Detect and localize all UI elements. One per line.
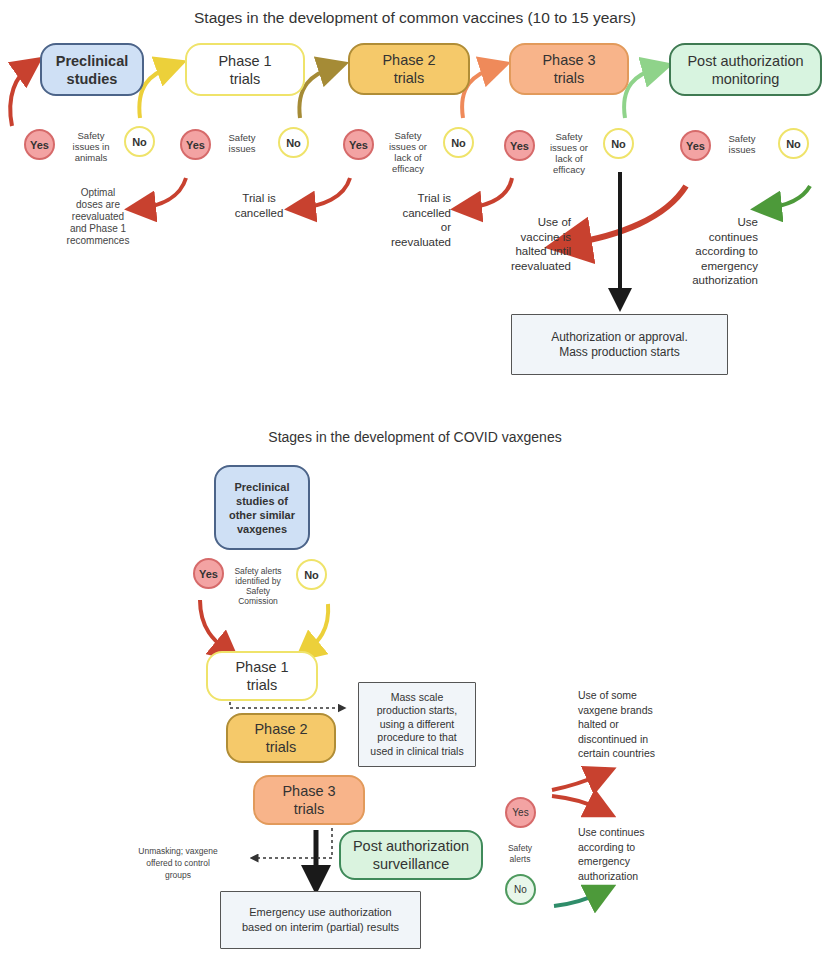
stage-label: Phase 3 [542, 51, 595, 69]
outcome-line: continues [676, 230, 758, 245]
question-line: Safety [385, 130, 431, 141]
outcome-line: reevaluated [390, 235, 451, 250]
outcome-line: and Phase 1 [64, 223, 132, 235]
outcome-use-continues: Usecontinuesaccording toemergencyauthori… [676, 215, 758, 288]
question-line: issues in [66, 141, 116, 152]
stage-phase1-trials: Phase 1trials [185, 43, 305, 96]
question-label-1: Safetyissues inanimals [66, 130, 116, 163]
outcome-line: Trial is [390, 191, 451, 206]
outcome-line: Use [676, 215, 758, 230]
question-line: identified by [228, 576, 288, 586]
stage-label: monitoring [687, 70, 803, 88]
question-label-5: Safetyissues [722, 133, 762, 155]
question-line: Safety [66, 130, 116, 141]
outcome-line: authorization [578, 869, 678, 884]
box-line: production starts, [370, 704, 463, 718]
question-line: issues or [385, 141, 431, 152]
stage-label: studies [56, 70, 129, 88]
question-line: animals [66, 152, 116, 163]
question-line: lack of [385, 152, 431, 163]
question-line: Safety alerts [228, 566, 288, 576]
box-line: Mass scale [370, 691, 463, 705]
yes-node-3: Yes [343, 129, 374, 160]
outcome-line: Trial is [226, 191, 292, 206]
stage-line: Preclinical [229, 480, 295, 494]
outcome-line: Use continues [578, 825, 678, 840]
stage-label: trials [235, 676, 288, 694]
outcome-trial-cancelled: Trial iscancelled [226, 191, 292, 220]
question-label-4: Safetyissues orlack ofefficacy [546, 131, 592, 175]
stage-label: trials [382, 69, 435, 87]
outcome-line: vaccine is [500, 230, 571, 245]
outcome-line: Use of some [578, 688, 688, 703]
question-line: Safety [722, 133, 762, 144]
question-line: issues [722, 144, 762, 155]
outcome-line: cancelled [226, 206, 292, 221]
outcome-line: Optimal [64, 187, 132, 199]
outcome-line: certain countries [578, 746, 688, 761]
yes-node-5: Yes [680, 130, 711, 161]
question-line: efficacy [385, 163, 431, 174]
yes-node-safety-commission: Yes [193, 558, 224, 589]
yes-node-1: Yes [24, 129, 55, 160]
no-node-3: No [443, 127, 474, 158]
stage-phase2-trials: Phase 2trials [348, 43, 470, 95]
stage-label: Phase 3 [282, 782, 335, 800]
outcome-line: doses are [64, 199, 132, 211]
covid-phase2-trials: Phase 2trials [226, 713, 336, 763]
box-line: used in clinical trials [370, 745, 463, 759]
box-line: using a different [370, 718, 463, 732]
outcome-line: emergency [578, 854, 678, 869]
stage-label: Phase 2 [382, 51, 435, 69]
outcome-brands-halted: Use of somevaxgene brandshalted ordiscon… [578, 688, 688, 761]
stage-label: Phase 1 [218, 52, 271, 70]
note-line: offered to control [130, 857, 226, 869]
stage-label: surveillance [353, 855, 469, 873]
question-line: Safety [222, 132, 262, 143]
note-line: groups [130, 869, 226, 881]
note-line: Unmasking; vaxgene [130, 845, 226, 857]
stage-label: Phase 2 [254, 720, 307, 738]
outcome-line: vaxgene brands [578, 703, 688, 718]
outcome-line: Use of [500, 215, 571, 230]
stage-line: other similar [229, 508, 295, 522]
question-line: efficacy [546, 164, 592, 175]
box-line: procedure to that [370, 731, 463, 745]
stage-label: Preclinical [56, 52, 129, 70]
yes-node-2: Yes [180, 129, 211, 160]
yes-node-4: Yes [504, 130, 535, 161]
outcome-line: according to [676, 244, 758, 259]
no-node-safety-alerts: No [505, 874, 536, 905]
no-node-2: No [278, 127, 309, 158]
stage-preclinical-studies: Preclinicalstudies [40, 43, 144, 96]
stage-label: trials [542, 69, 595, 87]
outcome-line: authorization [676, 273, 758, 288]
yes-node-safety-alerts: Yes [505, 797, 536, 828]
outcome-line: discontinued in [578, 732, 688, 747]
stage-phase3-trials: Phase 3trials [509, 43, 629, 95]
question-line: Safety [502, 843, 538, 854]
mass-scale-production-box: Mass scaleproduction starts,using a diff… [358, 682, 476, 767]
box-line: Mass production starts [551, 345, 688, 360]
unmasking-note: Unmasking; vaxgeneoffered to controlgrou… [130, 845, 226, 881]
stage-preclinical-similar-vaxgenes: Preclinicalstudies ofother similarvaxgen… [214, 465, 310, 550]
stage-label: Post authorization [687, 52, 803, 70]
outcome-line: emergency [676, 259, 758, 274]
outcome-line: reevaluated [500, 259, 571, 274]
question-line: lack of [546, 153, 592, 164]
outcome-vaccine-halted: Use ofvaccine ishalted untilreevaluated [500, 215, 571, 273]
bottom-diagram-title: Stages in the development of COVID vaxge… [0, 429, 830, 445]
question-line: alerts [502, 854, 538, 865]
outcome-line: halted until [500, 244, 571, 259]
no-node-1: No [124, 126, 155, 157]
question-safety-commission: Safety alertsidentified bySafetyComissio… [228, 566, 288, 606]
no-node-4: No [603, 128, 634, 159]
outcome-line: or [390, 220, 451, 235]
stage-line: studies of [229, 494, 295, 508]
post-authorization-surveillance: Post authorizationsurveillance [339, 830, 483, 880]
question-label-3: Safetyissues orlack ofefficacy [385, 130, 431, 174]
question-line: Safety [546, 131, 592, 142]
no-node-safety-commission: No [296, 559, 327, 590]
outcome-use-continues-emergency: Use continuesaccording toemergencyauthor… [578, 825, 678, 883]
covid-phase1-trials: Phase 1trials [206, 651, 318, 701]
